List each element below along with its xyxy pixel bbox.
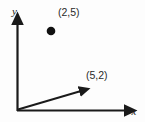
- point-label: (2,5): [58, 6, 80, 18]
- vector-arrow-icon: [18, 91, 81, 110]
- coordinate-diagram: y x (2,5) (5,2): [0, 0, 145, 122]
- vector-arrow: [18, 91, 81, 110]
- y-axis-label: y: [11, 5, 17, 17]
- x-axis-label: x: [131, 105, 137, 117]
- filled-circle-icon: [47, 27, 56, 36]
- vector-label: (5,2): [86, 69, 108, 81]
